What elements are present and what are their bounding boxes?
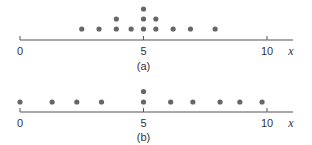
- figure-caption: (a): [137, 60, 150, 72]
- tick-label: 10: [261, 45, 273, 57]
- tick-label: 5: [140, 117, 146, 129]
- x-axis-label: x: [287, 44, 294, 58]
- data-dot: [171, 26, 176, 31]
- data-dot: [188, 26, 193, 31]
- data-dot: [17, 99, 22, 104]
- data-dot: [129, 26, 134, 31]
- x-axis-label: x: [287, 116, 294, 130]
- data-dot: [141, 16, 146, 21]
- dot-plot-figure: 0510x(a)0510x(b): [0, 0, 312, 145]
- data-dot: [168, 99, 173, 104]
- tick-label: 0: [17, 45, 23, 57]
- data-dot: [213, 26, 218, 31]
- data-dot: [237, 99, 242, 104]
- data-dot: [153, 16, 158, 21]
- data-dot: [79, 26, 84, 31]
- data-dot: [217, 99, 222, 104]
- tick-label: 5: [140, 45, 146, 57]
- data-dot: [99, 99, 104, 104]
- data-dot: [141, 6, 146, 11]
- data-dot: [114, 16, 119, 21]
- data-dot: [50, 99, 55, 104]
- tick-label: 0: [17, 117, 23, 129]
- data-dot: [114, 26, 119, 31]
- data-dot: [259, 99, 264, 104]
- data-dot: [141, 89, 146, 94]
- data-dot: [153, 26, 158, 31]
- data-dot: [141, 26, 146, 31]
- data-dot: [74, 99, 79, 104]
- data-dot: [190, 99, 195, 104]
- tick-label: 10: [261, 117, 273, 129]
- data-dot: [96, 26, 101, 31]
- figure-caption: (b): [137, 131, 150, 143]
- data-dot: [141, 99, 146, 104]
- dot-plots-svg: 0510x(a)0510x(b): [0, 0, 312, 145]
